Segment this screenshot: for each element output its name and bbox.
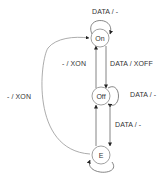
- state-on: On: [91, 29, 109, 47]
- state-e: E: [92, 146, 110, 164]
- label-e-to-on: - / XON: [7, 93, 31, 100]
- state-off: Off: [92, 87, 110, 105]
- label-off-self-loop: DATA / -: [130, 91, 156, 98]
- state-off-label: Off: [96, 93, 105, 100]
- label-off-to-on: - / XON: [62, 60, 86, 67]
- transition-e-to-on: [42, 37, 90, 154]
- state-e-label: E: [99, 152, 104, 159]
- state-diagram-canvas: On Off E: [0, 0, 167, 179]
- label-off-to-e: DATA / -: [115, 121, 141, 128]
- label-on-self-loop: DATA / -: [92, 8, 118, 15]
- state-on-label: On: [95, 35, 104, 42]
- label-on-to-off: DATA / XOFF: [110, 60, 153, 67]
